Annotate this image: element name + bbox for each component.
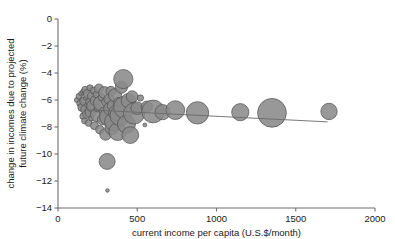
y-tick-label: −4 [41, 67, 52, 78]
y-tick-label: −14 [36, 202, 52, 213]
bubble-point [114, 69, 133, 88]
bubble-point [122, 127, 139, 144]
bubble-point [143, 123, 147, 127]
y-axis-title-line2: future climate change (%) [17, 59, 28, 167]
y-tick-label: −10 [36, 148, 52, 159]
x-tick-label: 1500 [285, 213, 306, 224]
x-axis-title: current income per capita (U.S.$/month) [132, 227, 301, 238]
bubble-point [186, 102, 208, 124]
bubble-point [166, 101, 185, 120]
x-tick-label: 1000 [206, 213, 227, 224]
bubble-point [106, 189, 110, 193]
bubble-point [321, 103, 337, 119]
x-tick-label: 500 [129, 213, 145, 224]
bubble-point [137, 95, 143, 101]
y-tick-label: 0 [47, 13, 52, 24]
bubble-point [126, 91, 138, 103]
bubble-point [258, 98, 287, 127]
y-tick-label: −2 [41, 40, 52, 51]
bubbles-layer [74, 69, 337, 192]
y-tick-label: −8 [41, 121, 52, 132]
y-tick-label: −6 [41, 94, 52, 105]
x-tick-label: 2000 [364, 213, 385, 224]
y-tick-label: −12 [36, 175, 52, 186]
chart-canvas: 0−2−4−6−8−10−12−140500100015002000 curre… [0, 0, 395, 239]
bubble-chart: 0−2−4−6−8−10−12−140500100015002000 curre… [0, 0, 395, 239]
x-tick-label: 0 [55, 213, 60, 224]
y-axis-title-line1: change in incomes due to projected [5, 39, 16, 189]
bubble-point [99, 153, 115, 169]
